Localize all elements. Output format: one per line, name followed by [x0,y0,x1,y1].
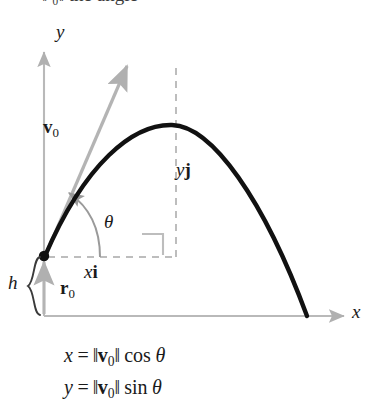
velocity-vector-label: v0 [43,117,59,140]
equation-y-norm-symbol: v [98,376,108,398]
trajectory-curve [45,125,307,316]
horizontal-component-label: xi [84,262,98,281]
launch-point-dot [39,251,49,261]
equation-x-norm-subscript: 0 [108,354,115,369]
equation-y-angle: θ [152,376,162,398]
equation-x-function: cos [124,344,151,366]
projectile-motion-diagram [0,0,376,411]
angle-label: θ [104,212,113,231]
position-vector-label: r0 [60,278,75,301]
i-unit-vector: i [92,261,97,282]
x-axis-label: x [352,302,360,321]
vertical-component-label: yj [176,160,191,179]
equation-x-lhs: x [64,344,73,366]
height-brace [28,257,40,315]
equation-y-lhs: y [64,376,73,398]
right-angle-marker [142,234,163,255]
equation-y: y = ‖v0‖ sin θ [64,377,162,400]
equation-x-angle: θ [155,344,165,366]
velocity-vector-subscript: 0 [53,125,59,140]
height-label: h [8,273,18,292]
equation-y-norm-subscript: 0 [108,386,115,401]
equation-x-norm-symbol: v [98,344,108,366]
equation-y-function: sin [124,376,147,398]
velocity-vector-symbol: v [43,116,53,137]
position-vector-subscript: 0 [68,286,74,301]
j-unit-vector: j [184,159,190,180]
y-axis-label: y [56,22,64,41]
equation-x: x = ‖v0‖ cos θ [64,345,165,368]
